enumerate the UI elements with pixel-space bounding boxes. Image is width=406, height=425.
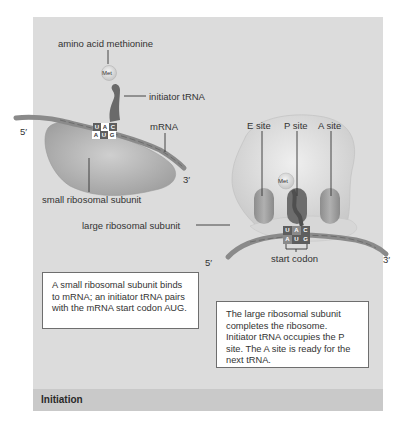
label-a-site: A site (318, 120, 341, 131)
label-3-prime-1: 3′ (183, 174, 190, 185)
label-small-ribosomal-subunit: small ribosomal subunit (42, 194, 141, 205)
codon-base: U (100, 131, 108, 139)
label-e-site: E site (247, 120, 271, 131)
label-met-2: Met (278, 177, 288, 185)
anticodon-base: C (301, 226, 310, 235)
anticodon-tiles-1: U A C (93, 123, 117, 131)
anticodon-base: U (283, 226, 292, 235)
label-start-codon: start codon (271, 253, 318, 264)
label-3-prime-2: 3′ (383, 254, 390, 265)
stage-title-bar: Initiation (33, 389, 383, 411)
label-5-prime-2: 5′ (205, 257, 212, 268)
a-site-pillar (320, 188, 340, 224)
e-site-pillar (254, 188, 274, 224)
codon-tiles-2: A U G (283, 235, 310, 244)
anticodon-base: U (93, 123, 101, 131)
anticodon-tiles-2: U A C (283, 226, 310, 235)
label-initiator-trna: initiator tRNA (149, 91, 205, 102)
label-amino-acid-methionine: amino acid methionine (58, 38, 153, 49)
caption-stage-1: A small ribosomal subunit binds to mRNA;… (42, 272, 199, 329)
label-large-ribosomal-subunit: large ribosomal subunit (82, 220, 180, 231)
anticodon-base: A (292, 226, 301, 235)
codon-base: A (283, 235, 292, 244)
anticodon-base: A (101, 123, 109, 131)
codon-base: U (292, 235, 301, 244)
codon-base: G (108, 131, 116, 139)
codon-base: A (92, 131, 100, 139)
caption-stage-2: The large ribosomal subunit completes th… (216, 301, 369, 368)
anticodon-base: C (109, 123, 117, 131)
label-met-1: Met (102, 69, 112, 77)
codon-base: G (301, 235, 310, 244)
label-p-site: P site (284, 120, 308, 131)
label-mrna: mRNA (150, 121, 178, 132)
label-5-prime-1: 5′ (20, 126, 27, 137)
codon-tiles-1: A U G (92, 131, 116, 139)
stage-title: Initiation (41, 394, 83, 405)
initiator-trna-1 (109, 84, 120, 122)
